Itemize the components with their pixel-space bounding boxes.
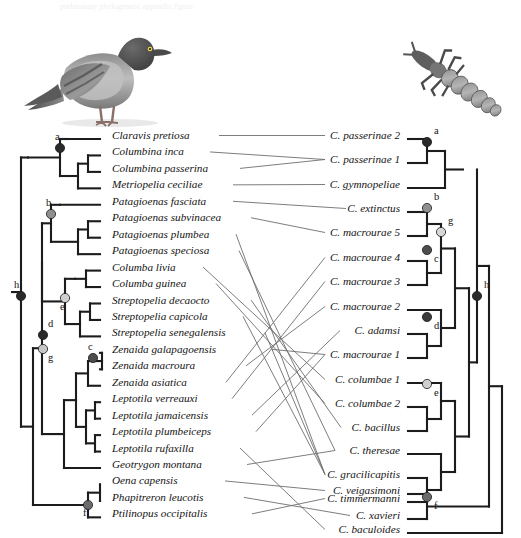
node-label-e: e xyxy=(434,387,439,398)
association-link xyxy=(240,448,325,529)
node-label-c: c xyxy=(88,341,93,352)
host-tip-label: Columba livia xyxy=(112,261,176,273)
host-tip-label: Ptilinopus occipitalis xyxy=(111,507,208,519)
host-tip-label: Zenaida macroura xyxy=(112,359,196,371)
host-tip-label: Metriopelia ceciliae xyxy=(111,178,202,190)
node-marker-b xyxy=(46,209,55,218)
host-tree xyxy=(12,139,102,517)
node-marker-c xyxy=(88,353,97,362)
parasite-tip-label: C. macrourae 2 xyxy=(330,300,401,312)
association-link xyxy=(243,316,325,474)
host-tip-label: Leptotila plumbeiceps xyxy=(111,425,212,437)
parasite-tip-label: C. macrourae 1 xyxy=(330,348,400,360)
parasite-tree xyxy=(408,139,502,533)
parasite-tip-label: C. passerinae 2 xyxy=(330,129,400,141)
node-marker-h xyxy=(16,291,25,300)
association-link xyxy=(251,300,341,428)
association-link xyxy=(252,331,340,416)
node-label-c: c xyxy=(434,253,439,264)
node-label-e: e xyxy=(60,301,65,312)
host-tip-label: Zenaida asiatica xyxy=(112,376,187,388)
tanglegram-figure: preliminary phylogenetic appendix figure xyxy=(0,0,521,538)
node-marker-a xyxy=(422,137,431,146)
association-link xyxy=(225,481,325,491)
host-tip-labels: Claravis pretiosaColumbina incaColumbina… xyxy=(111,129,226,519)
host-tip-label: Claravis pretiosa xyxy=(112,129,190,141)
host-tip-label: Geotrygon montana xyxy=(112,458,202,470)
association-link xyxy=(226,258,325,383)
association-link xyxy=(233,201,346,208)
node-marker-d xyxy=(422,312,431,321)
host-tip-label: Streptopelia senegalensis xyxy=(112,326,226,338)
parasite-tip-label: C. xavieri xyxy=(356,509,400,521)
node-marker-c xyxy=(422,245,431,254)
host-tip-label: Oena capensis xyxy=(112,474,178,486)
host-tip-label: Patagioenas subvinacea xyxy=(111,211,221,223)
parasite-tip-label: C. passerinae 1 xyxy=(330,153,400,165)
host-tip-label: Patagioenas speciosa xyxy=(111,244,210,256)
association-link xyxy=(240,160,325,169)
node-label-d: d xyxy=(434,320,440,331)
host-tip-label: Leptotila rufaxilla xyxy=(111,442,194,454)
parasite-tip-label: C. veigasimoni xyxy=(333,484,400,496)
node-label-g: g xyxy=(448,215,454,226)
host-tip-label: Columbina passerina xyxy=(112,162,208,174)
parasite-tip-label: C. macrourae 3 xyxy=(330,275,401,287)
node-label-h: h xyxy=(14,279,20,290)
parasite-tip-label: C. adamsi xyxy=(355,324,400,336)
host-tip-label: Zenaida galapagoensis xyxy=(112,343,217,355)
node-marker-g xyxy=(436,227,445,236)
node-label-d: d xyxy=(48,318,54,329)
parasite-tip-label: C. macrourae 5 xyxy=(330,226,401,238)
node-label-b: b xyxy=(434,191,439,202)
node-marker-h xyxy=(472,291,481,300)
node-label-a: a xyxy=(434,125,439,136)
parasite-tip-label: C. macrourae 4 xyxy=(330,251,401,263)
node-marker-e xyxy=(422,379,431,388)
node-label-f: f xyxy=(434,500,438,511)
parasite-tip-label: C. gymnopeliae xyxy=(330,178,400,190)
host-tip-label: Patagioenas plumbea xyxy=(111,228,210,240)
host-tip-label: Streptopelia capicola xyxy=(112,310,208,322)
host-tip-label: Columba guinea xyxy=(112,277,187,289)
parasite-tip-label: C. gracilicapitis xyxy=(327,468,400,480)
host-tip-label: Leptotila jamaicensis xyxy=(111,409,209,421)
association-link xyxy=(210,152,325,160)
node-marker-a xyxy=(55,143,64,152)
parasite-tip-label: C. baculoides xyxy=(338,523,400,535)
node-marker-f xyxy=(422,492,431,501)
node-label-h: h xyxy=(484,279,490,290)
node-label-g: g xyxy=(48,352,54,363)
host-tip-label: Columbina inca xyxy=(112,145,184,157)
parasite-tip-label: C. bacillus xyxy=(352,421,401,433)
node-label-a: a xyxy=(55,131,60,142)
association-link xyxy=(232,282,325,399)
node-marker-b xyxy=(422,203,431,212)
parasite-tip-label: C. columbae 2 xyxy=(335,397,400,409)
host-tip-label: Leptotila verreauxi xyxy=(111,392,198,404)
node-marker-d xyxy=(38,330,47,339)
node-label-b: b xyxy=(46,197,51,208)
host-tip-label: Streptopelia decaocto xyxy=(112,294,210,306)
parasite-tip-label: C. theresae xyxy=(349,444,400,456)
node-marker-g xyxy=(38,344,47,353)
tanglegram-canvas: Claravis pretiosaColumbina incaColumbina… xyxy=(0,0,521,538)
host-tip-label: Patagioenas fasciata xyxy=(111,195,207,207)
parasite-tip-label: C. columbae 1 xyxy=(335,373,400,385)
association-link xyxy=(247,451,335,465)
node-label-f: f xyxy=(83,507,87,518)
association-link xyxy=(251,218,325,233)
host-tip-label: Phapitreron leucotis xyxy=(111,491,204,503)
parasite-tip-label: C. extinctus xyxy=(347,202,400,214)
